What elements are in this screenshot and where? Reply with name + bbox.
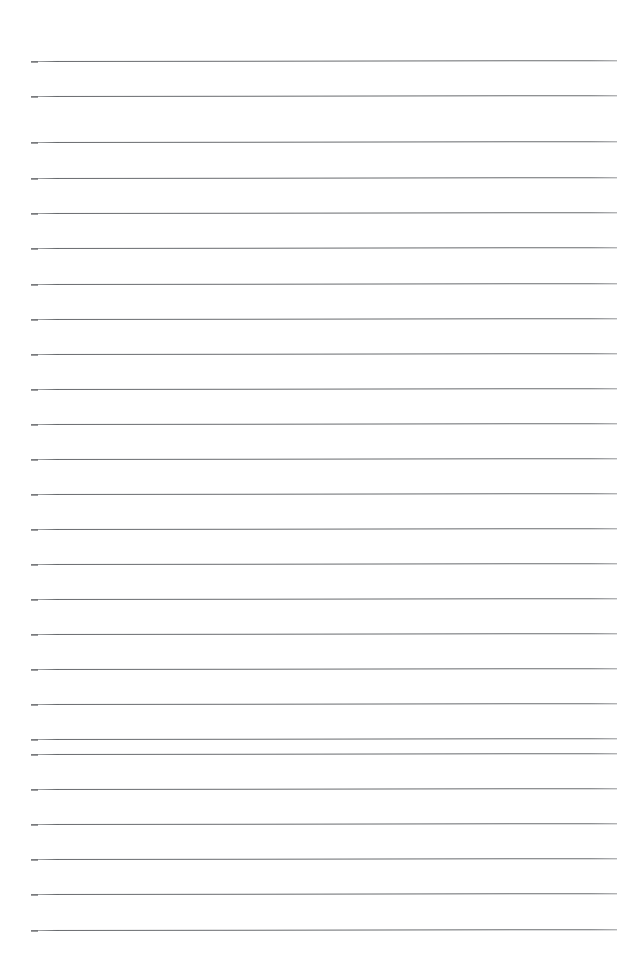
ruled-line <box>31 633 617 635</box>
ruled-line <box>31 353 617 355</box>
ruled-line-left-cap <box>31 284 38 286</box>
ruled-line-left-cap <box>31 634 38 636</box>
ruled-line <box>31 893 617 895</box>
ruled-line <box>31 212 617 214</box>
ruled-line-left-cap <box>31 459 38 461</box>
ruled-line-left-cap <box>31 213 38 215</box>
ruled-line <box>31 318 617 320</box>
ruled-line-left-cap <box>31 424 38 426</box>
ruled-line <box>31 458 617 460</box>
ruled-line <box>31 703 617 705</box>
ruled-line <box>31 753 617 755</box>
ruled-line <box>31 60 617 62</box>
ruled-line-left-cap <box>31 894 38 896</box>
ruled-line-left-cap <box>31 494 38 496</box>
ruled-line-left-cap <box>31 824 38 826</box>
ruled-line <box>31 283 617 285</box>
ruled-line <box>31 788 617 790</box>
ruled-line-left-cap <box>31 669 38 671</box>
ruled-line <box>31 738 617 740</box>
ruled-line-left-cap <box>31 599 38 601</box>
ruled-line-left-cap <box>31 704 38 706</box>
ruled-line-left-cap <box>31 930 38 932</box>
ruled-line-left-cap <box>31 96 38 98</box>
ruled-line-left-cap <box>31 389 38 391</box>
ruled-line-left-cap <box>31 859 38 861</box>
ruled-line <box>31 858 617 860</box>
ruled-line <box>31 388 617 390</box>
ruled-line <box>31 141 617 143</box>
ruled-line <box>31 95 617 97</box>
ruled-line-left-cap <box>31 248 38 250</box>
ruled-line-left-cap <box>31 789 38 791</box>
ruled-line <box>31 823 617 825</box>
ruled-line-left-cap <box>31 564 38 566</box>
ruled-line-left-cap <box>31 529 38 531</box>
ruled-line <box>31 929 617 931</box>
ruled-line-left-cap <box>31 754 38 756</box>
ruled-line-left-cap <box>31 354 38 356</box>
scanned-page <box>0 0 641 966</box>
ruled-line-left-cap <box>31 319 38 321</box>
ruled-line <box>31 493 617 495</box>
ruled-line-left-cap <box>31 142 38 144</box>
ruled-line <box>31 563 617 565</box>
ruled-lines-layer <box>0 0 641 966</box>
ruled-line <box>31 247 617 249</box>
ruled-line <box>31 528 617 530</box>
ruled-line <box>31 668 617 670</box>
ruled-line <box>31 177 617 179</box>
ruled-line-left-cap <box>31 739 38 741</box>
ruled-line-left-cap <box>31 178 38 180</box>
ruled-line <box>31 598 617 600</box>
ruled-line <box>31 423 617 425</box>
ruled-line-left-cap <box>31 61 38 63</box>
